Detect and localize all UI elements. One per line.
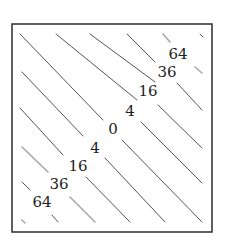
contour-level-label: 16 xyxy=(138,82,157,100)
contour-level-label: 0 xyxy=(108,120,118,138)
contour-line xyxy=(56,34,137,100)
contour-line xyxy=(200,34,203,37)
contour-line xyxy=(22,72,83,136)
contour-line xyxy=(163,34,170,42)
contour-line xyxy=(20,34,103,120)
contour-line xyxy=(177,83,202,110)
contour-line xyxy=(86,177,130,222)
contour-level-label: 16 xyxy=(68,157,87,175)
contour-line xyxy=(90,34,155,82)
contour-line xyxy=(158,105,202,148)
contour-level-label: 36 xyxy=(157,63,176,81)
contour-line xyxy=(22,220,25,223)
contour-level-label: 36 xyxy=(49,175,68,193)
contour-level-label: 4 xyxy=(90,139,100,157)
contour-line xyxy=(22,147,48,172)
contour-plot: 643616404163664 xyxy=(0,0,225,243)
contour-line xyxy=(70,197,95,222)
contour-line xyxy=(22,182,30,190)
contour-line xyxy=(195,67,202,73)
contour-level-label: 64 xyxy=(32,193,51,211)
contour-diagram: 643616404163664 xyxy=(0,0,225,243)
contour-line xyxy=(105,158,165,222)
contour-line xyxy=(52,215,58,222)
contour-level-label: 64 xyxy=(168,45,187,63)
contour-line xyxy=(20,108,63,155)
contour-level-label: 4 xyxy=(125,102,135,120)
contour-labels: 643616404163664 xyxy=(32,45,187,211)
contour-line xyxy=(127,34,155,62)
contour-line xyxy=(122,140,202,222)
contour-line xyxy=(141,122,202,183)
